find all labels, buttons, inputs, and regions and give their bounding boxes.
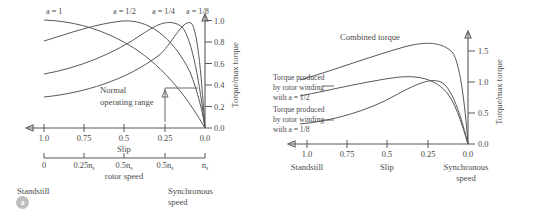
- rotor-speed-tick-label-4: 0.5ns: [157, 161, 174, 171]
- b-y-tick-label-3: 0.5: [478, 109, 488, 118]
- y-tick-label-5: 0.2: [214, 103, 224, 112]
- panel-a-synchronous-label-line1: Synchronous: [168, 186, 214, 196]
- x-tick-label-1: 1.0: [39, 134, 49, 143]
- note-eighth-line1: Torque produced: [273, 105, 325, 114]
- panel-a-standstill-label: Standstill: [17, 186, 50, 196]
- curve-label-a-eighth: a = 1/8: [186, 7, 209, 16]
- panel-a-x-axis-title: Slip: [117, 144, 131, 154]
- note-half-line1: Torque produced: [273, 73, 325, 82]
- panel-a-svg: 1.0 0.8 0.6 0.4 0.2 0.0 Torque/max torqu…: [0, 0, 272, 220]
- panel-a-y-axis-title: Torque/max torque: [230, 42, 240, 108]
- y-tick-label-6: 0.0: [214, 124, 224, 133]
- b-x-tick-label-4: 0.25: [421, 150, 436, 159]
- rotor-speed-tick-label-5: ns: [202, 161, 208, 171]
- b-y-tick-label-4: 0.0: [478, 140, 488, 149]
- note-eighth-line2: by rotor winding: [273, 115, 324, 124]
- x-tick-label-2: 0.75: [77, 134, 92, 143]
- note-half-line2: by rotor winding: [273, 83, 324, 92]
- panel-a-rotor-speed-title: rotor speed: [105, 171, 144, 181]
- y-tick-label-3: 0.6: [214, 60, 224, 69]
- normal-operating-range-line1: Normal: [100, 85, 127, 95]
- panel-a-synchronous-label-line2: speed: [168, 197, 188, 207]
- panel-b-synchronous-label-line1: Synchronous: [444, 162, 490, 172]
- curve-label-a-1: a = 1: [46, 7, 62, 16]
- x-tick-label-5: 0.0: [200, 134, 210, 143]
- y-tick-label-2: 0.8: [214, 38, 224, 47]
- combined-torque-label: Combined torque: [340, 32, 400, 42]
- curve-a-1: [44, 20, 205, 128]
- panel-b-standstill-label: Standstill: [291, 162, 324, 172]
- rotor-speed-tick-label-2: 0.25ns: [73, 161, 94, 171]
- note-eighth-line3: with a = 1/8: [273, 125, 310, 134]
- curve-b-eighth: [300, 81, 468, 144]
- panel-b-synchronous-label-line2: speed: [456, 173, 476, 183]
- panel-a-badge: a: [16, 196, 29, 209]
- b-x-tick-label-1: 1.0: [302, 150, 312, 159]
- panel-b-y-axis-title: Torque/max torque: [494, 59, 504, 125]
- curve-b-half: [300, 77, 468, 144]
- panel-b-svg: 1.5 1.0 0.5 0.0 Torque/max torque 1.0 0.…: [272, 0, 547, 220]
- b-y-tick-label-1: 1.5: [478, 47, 488, 56]
- x-tick-label-4: 0.25: [158, 134, 173, 143]
- b-x-tick-label-2: 0.75: [340, 150, 355, 159]
- figure-container: 1.0 0.8 0.6 0.4 0.2 0.0 Torque/max torqu…: [0, 0, 547, 220]
- y-tick-label-1: 1.0: [214, 17, 224, 26]
- normal-operating-range-line2: operating range: [100, 97, 154, 107]
- y-tick-label-4: 0.4: [214, 81, 225, 90]
- note-half-line3: with a = 1/2: [273, 93, 310, 102]
- b-x-tick-label-5: 0.0: [463, 150, 473, 159]
- panel-b-x-axis-title: Slip: [380, 162, 394, 172]
- rotor-speed-tick-label-3: 0.5ns: [116, 161, 133, 171]
- curve-label-a-half: a = 1/2: [113, 7, 136, 16]
- b-x-tick-label-3: 0.5: [382, 150, 392, 159]
- b-y-tick-label-2: 1.0: [478, 78, 488, 87]
- panel-a-chart: 1.0 0.8 0.6 0.4 0.2 0.0 Torque/max torqu…: [0, 0, 272, 220]
- curve-a-half: [44, 21, 205, 128]
- curve-a-eighth: [44, 23, 205, 128]
- rotor-speed-tick-label-1: 0: [42, 161, 46, 170]
- panel-b-chart: 1.5 1.0 0.5 0.0 Torque/max torque 1.0 0.…: [272, 0, 547, 220]
- x-tick-label-3: 0.5: [119, 134, 129, 143]
- curve-label-a-quarter: a = 1/4: [152, 7, 175, 16]
- curve-b-combined: [300, 43, 468, 144]
